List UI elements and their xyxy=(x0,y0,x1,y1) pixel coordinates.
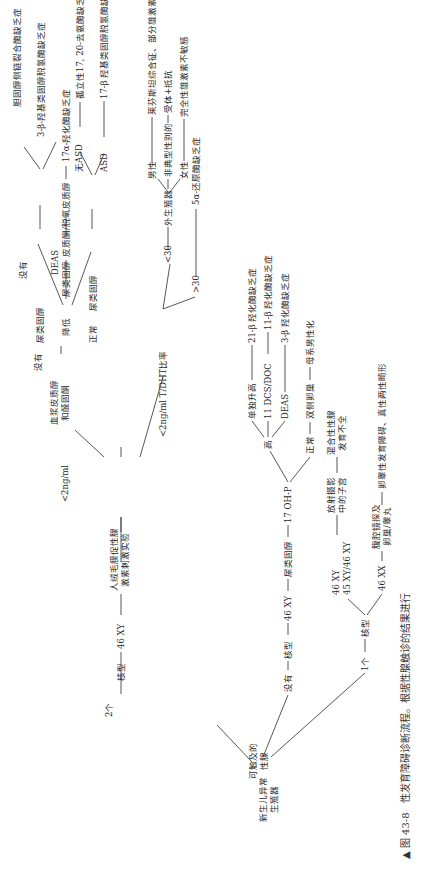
dx-11beta-hydroxylase: 11-β 羟化酶缺乏症 xyxy=(263,255,273,330)
dx-cholesterol-side-chain: 胆固醇侧链裂合酶缺乏症 xyxy=(12,8,22,107)
urine-steroid-low: 尿类固醇 xyxy=(61,261,71,297)
hcg-test-line2: 激素刺激实验 xyxy=(120,528,131,591)
plasma-line2: 和醛固酮 xyxy=(60,380,71,425)
laparoscopy-node: 腹腔镜探及 卵巢/睾丸 xyxy=(371,504,393,549)
karyotype-one: 核型 xyxy=(360,619,370,637)
caption-label: 图 43-8 xyxy=(400,812,411,848)
dx-isolated-17-20-lyase: 孤立性17, 20-去氨酶缺乏症 xyxy=(75,0,85,99)
plasma-none-label: 没有 xyxy=(33,353,43,371)
urine-steroid-none: 尿类固醇 xyxy=(35,307,45,343)
genitalia-atypical: 非典型性别的 xyxy=(163,123,173,177)
plasma-low-label: 降低 xyxy=(61,318,71,336)
urine-steroid-normal: 尿类固醇 xyxy=(88,275,98,311)
high-alone: 单独升高 xyxy=(247,383,257,419)
high-11-dcs: 11 DCS/DOC xyxy=(263,363,273,419)
karyotype-two: 核型 xyxy=(116,663,126,681)
root-label-line2: 生殖器 xyxy=(269,777,280,822)
karyotype-46xy-one: 46 XY xyxy=(331,570,341,595)
bilateral-ovaries: 双侧卵巢 xyxy=(305,383,315,419)
dx-5alpha-reductase: 5α-还原酶缺乏症 xyxy=(191,137,201,205)
palpable-label-line1: 可触及的 xyxy=(248,743,259,779)
karyotype-46xy-two: 46 XY xyxy=(116,624,126,649)
plasma-cortisol-node: 血浆皮质醇 和醛固酮 xyxy=(49,380,71,425)
karyotype-46xy-none: 46 XY xyxy=(283,596,293,621)
imaging-line2: 中的子宫 xyxy=(337,477,348,513)
imaging-uterus-node: 放射摄影 中的子宫 xyxy=(326,477,348,513)
plasma-line1: 血浆皮质醇 xyxy=(49,380,60,425)
ratio-gt30-label: >30 xyxy=(191,275,201,293)
dx-mixed-gonadal-dysgenesis: 混合性性腺 发育不全 xyxy=(326,410,348,455)
dx-receptor-resistance: 受体+抵抗 xyxy=(163,70,173,113)
figure-caption: ▲ 图 43-8 性发育障碍诊断流程。根据性腺触诊的结果进行 xyxy=(400,593,412,859)
plasma-normal-label: 正常 xyxy=(88,325,98,343)
genitalia-female: 女性 xyxy=(179,161,189,179)
palpable-gonads-node: 可触及的 性腺 xyxy=(248,743,270,779)
dx-17alpha-hydroxylase: 17α-羟化酶缺乏症 xyxy=(61,89,71,162)
hcg-test-node: 人绒毛膜促性腺 激素刺激实验 xyxy=(109,528,131,591)
high-deas: DEAS xyxy=(280,394,290,419)
external-genitalia: 外生殖器 xyxy=(163,190,173,226)
deas-result: DEAS xyxy=(50,250,60,275)
dx-mixed-line2: 发育不全 xyxy=(337,410,348,455)
no-gonads-label: 没有 xyxy=(283,674,293,692)
low-testosterone-a: <2ng/ml xyxy=(60,465,70,502)
ratio-lt30-label: <30 xyxy=(163,245,173,263)
urine-steroid-none-branch: 尿类固醇 xyxy=(283,541,293,577)
karyotype-mosaic: 45 XY/46 XY xyxy=(342,542,352,595)
genitalia-male: 男性 xyxy=(147,161,157,179)
karyotype-none: 核型 xyxy=(283,641,293,659)
dx-reifenstein-pais: 莱芬斯坦综合征、部分雄激素不敏感综合征 xyxy=(147,0,157,115)
imaging-line1: 放射摄影 xyxy=(326,477,337,513)
t-dht-ratio-node: <2ng/ml T/DHT比率 xyxy=(158,351,168,437)
root-node: 新生儿异常 生殖器 xyxy=(258,777,280,822)
none-result: 没有 xyxy=(18,261,28,279)
17-ohp: 17 OH-P xyxy=(283,487,293,524)
dx-17beta-hsd: 17-β 羟基类固醇脱氢酶缺乏症 xyxy=(99,0,109,99)
dx-21-hydroxylase: 21-β 羟化酶缺乏症 xyxy=(247,268,257,343)
asd: ASD xyxy=(99,153,109,172)
dx-mixed-line1: 混合性性腺 xyxy=(326,410,337,455)
hcg-test-line1: 人绒毛膜促性腺 xyxy=(109,528,120,591)
dx-ovotesticular-dsd: 卵睾性发育障碍、真性两性畸形 xyxy=(377,363,387,489)
dx-3beta-hsd: 3-β-羟基类固醇脱氢酶缺乏症 xyxy=(36,22,46,137)
ohp-high: 高 xyxy=(263,440,273,449)
dx-3beta-hydroxylase: 3-β 羟化酶缺乏症 xyxy=(280,273,290,343)
laparoscopy-line2: 卵巢/睾丸 xyxy=(382,504,393,549)
one-gonad-label: 1个 xyxy=(360,657,370,671)
flowchart-diagram: 新生儿异常 生殖器 可触及的 性腺 2个 核型 46 XY 人绒毛膜促性腺 激素… xyxy=(0,0,425,877)
dx-maternal-virilization: 母系男性化 xyxy=(305,320,315,365)
ohp-normal: 正常 xyxy=(305,436,315,454)
no-asd: 无ASD xyxy=(74,144,84,172)
laparoscopy-line1: 腹腔镜探及 xyxy=(371,504,382,549)
karyotype-46xx: 46 XX xyxy=(377,565,387,591)
caption-triangle-icon: ▲ xyxy=(400,851,411,859)
corticosterone-finding: 皮质酮/脱氧皮质醇 xyxy=(61,182,71,257)
palpable-label-line2: 性腺 xyxy=(259,743,270,779)
dx-cais: 完全性雄激素不敏感 xyxy=(179,36,189,117)
root-label-line1: 新生儿异常 xyxy=(258,777,269,822)
caption-text: 性发育障碍诊断流程。根据性腺触诊的结果进行 xyxy=(400,593,411,803)
two-gonads-label: 2个 xyxy=(104,703,114,717)
